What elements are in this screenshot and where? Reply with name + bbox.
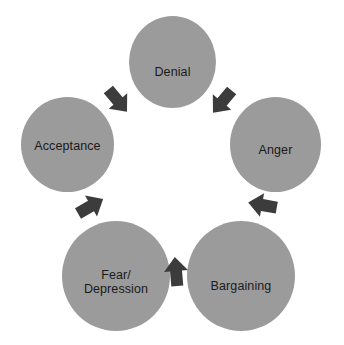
cycle-node-fear-depression[interactable]: Fear/ Depression [62, 221, 170, 331]
cycle-node-anger[interactable]: Anger [230, 97, 321, 192]
cycle-node-denial[interactable]: Denial [129, 16, 216, 108]
cycle-diagram: Denial Anger Bargaining Fear/ Depression… [0, 0, 344, 345]
cycle-node-bargaining[interactable]: Bargaining [187, 221, 295, 331]
cycle-node-label-anger: Anger [259, 143, 293, 157]
cycle-node-label-denial: Denial [154, 65, 190, 79]
cycle-node-acceptance[interactable]: Acceptance [21, 97, 114, 192]
cycle-node-label-bargaining: Bargaining [211, 279, 272, 293]
cycle-node-label-acceptance: Acceptance [34, 139, 100, 153]
cycle-node-label-fear-depression: Fear/ Depression [84, 268, 148, 296]
